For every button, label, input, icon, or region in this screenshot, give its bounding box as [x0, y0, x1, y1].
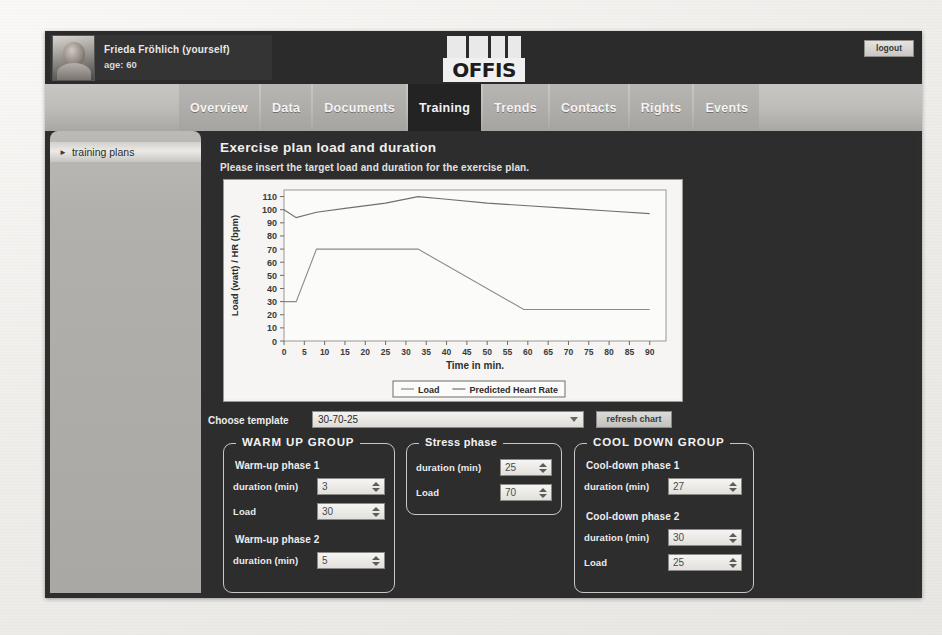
- svg-text:55: 55: [503, 347, 513, 357]
- svg-text:5: 5: [302, 347, 307, 357]
- tab-training[interactable]: Training: [408, 84, 481, 131]
- tab-documents[interactable]: Documents: [313, 84, 406, 131]
- cool-down-phase-1-duration-label: duration (min): [584, 481, 668, 492]
- svg-text:45: 45: [462, 347, 472, 357]
- stress-phase-load-label: Load: [416, 487, 500, 498]
- svg-text:Load: Load: [418, 385, 440, 395]
- cool-down-phase-2-load-value: 25: [673, 557, 684, 568]
- sidebar-item-training-plans[interactable]: ► training plans: [50, 142, 201, 162]
- warm-up-phase-2-duration-value: 5: [322, 555, 328, 566]
- svg-text:70: 70: [564, 347, 574, 357]
- tab-events[interactable]: Events: [694, 84, 759, 131]
- svg-text:110: 110: [262, 192, 277, 202]
- svg-text:40: 40: [442, 347, 452, 357]
- warm-up-phase-1-duration-label: duration (min): [233, 481, 317, 492]
- logo-bars-icon: [447, 36, 521, 60]
- svg-text:10: 10: [320, 347, 330, 357]
- warm-up-phase-1-duration-value: 3: [322, 481, 328, 492]
- chart-svg: 0102030405060708090100110Load (watt) / H…: [224, 180, 680, 399]
- stress-phase-legend: Stress phase: [419, 436, 503, 448]
- stepper-up-icon[interactable]: [539, 463, 547, 467]
- stepper-down-icon[interactable]: [539, 469, 547, 473]
- stepper-up-icon[interactable]: [729, 482, 737, 486]
- warm-up-phase-1-load-value: 30: [322, 506, 333, 517]
- tab-strip: OverviewDataDocumentsTrainingTrendsConta…: [45, 84, 922, 131]
- cool-down-phase-2-load-field: Load 25: [584, 554, 744, 571]
- stress-phase-load-stepper[interactable]: 70: [500, 484, 552, 501]
- stress-phase-duration-stepper[interactable]: 25: [500, 459, 552, 476]
- logout-button[interactable]: logout: [864, 40, 914, 57]
- stepper-up-icon[interactable]: [372, 507, 380, 511]
- svg-text:90: 90: [267, 218, 277, 228]
- avatar: [52, 35, 95, 81]
- warm-up-phase-1-duration-field: duration (min) 3: [233, 478, 385, 495]
- template-row: Choose template 30-70-25 refresh chart: [208, 411, 908, 431]
- template-select-value: 30-70-25: [318, 414, 358, 425]
- cool-down-phase-1-duration-stepper[interactable]: 27: [668, 478, 742, 495]
- exercise-plan-chart: 0102030405060708090100110Load (watt) / H…: [223, 179, 683, 402]
- warm-up-phase-1-duration-stepper[interactable]: 3: [317, 478, 385, 495]
- svg-text:35: 35: [421, 347, 431, 357]
- stress-phase-load-field: Load 70: [416, 484, 552, 501]
- warm-up-phase-1-title: Warm-up phase 1: [235, 460, 385, 471]
- svg-text:20: 20: [267, 310, 277, 320]
- application-window: Frieda Fröhlich (yourself) age: 60 OFFIS…: [45, 31, 922, 598]
- svg-text:70: 70: [267, 245, 277, 255]
- cool-down-phase-2-duration-label: duration (min): [584, 532, 668, 543]
- user-age: age: 60: [104, 58, 230, 72]
- warm-up-phase-2-duration-stepper[interactable]: 5: [317, 552, 385, 569]
- cool-down-group-fieldset: COOL DOWN GROUP Cool-down phase 1 durati…: [574, 443, 754, 593]
- template-select[interactable]: 30-70-25: [312, 411, 584, 428]
- refresh-chart-button[interactable]: refresh chart: [596, 411, 672, 428]
- stepper-up-icon[interactable]: [372, 556, 380, 560]
- cool-down-phase-2-duration-value: 30: [673, 532, 684, 543]
- stepper-down-icon[interactable]: [729, 488, 737, 492]
- cool-down-phase-2-load-stepper[interactable]: 25: [668, 554, 742, 571]
- tab-list: OverviewDataDocumentsTrainingTrendsConta…: [179, 84, 759, 131]
- cool-down-phase-1-duration-field: duration (min) 27: [584, 478, 744, 495]
- stepper-up-icon[interactable]: [729, 558, 737, 562]
- svg-text:0: 0: [272, 337, 277, 347]
- cool-down-phase-1-duration-value: 27: [673, 481, 684, 492]
- offis-logo: OFFIS: [439, 33, 529, 83]
- stepper-up-icon[interactable]: [539, 488, 547, 492]
- svg-text:40: 40: [267, 284, 277, 294]
- warm-up-phase-2-title: Warm-up phase 2: [235, 534, 385, 545]
- tab-data[interactable]: Data: [261, 84, 311, 131]
- warm-up-phase-1-load-stepper[interactable]: 30: [317, 503, 385, 520]
- tab-contacts[interactable]: Contacts: [550, 84, 628, 131]
- stepper-down-icon[interactable]: [372, 562, 380, 566]
- warm-up-phase-2-duration-label: duration (min): [233, 555, 317, 566]
- svg-text:15: 15: [340, 347, 350, 357]
- stress-phase-duration-field: duration (min) 25: [416, 459, 552, 476]
- cool-down-phase-2-load-label: Load: [584, 557, 668, 568]
- logo-wordmark: OFFIS: [443, 58, 525, 82]
- user-info-block: Frieda Fröhlich (yourself) age: 60: [50, 35, 272, 80]
- svg-text:100: 100: [262, 205, 277, 215]
- tab-rights[interactable]: Rights: [630, 84, 693, 131]
- warm-up-phase-2-duration-field: duration (min) 5: [233, 552, 385, 569]
- cool-down-phase-1-title: Cool-down phase 1: [586, 460, 744, 471]
- stepper-down-icon[interactable]: [372, 513, 380, 517]
- tab-trends[interactable]: Trends: [483, 84, 548, 131]
- svg-text:25: 25: [381, 347, 391, 357]
- svg-text:Predicted Heart Rate: Predicted Heart Rate: [469, 385, 558, 395]
- warm-up-phase-1-load-field: Load 30: [233, 503, 385, 520]
- tab-overview[interactable]: Overview: [179, 84, 259, 131]
- stepper-down-icon[interactable]: [729, 539, 737, 543]
- stepper-down-icon[interactable]: [539, 494, 547, 498]
- stress-phase-duration-value: 25: [505, 462, 516, 473]
- warm-up-phase-1-load-label: Load: [233, 506, 317, 517]
- stepper-down-icon[interactable]: [729, 564, 737, 568]
- svg-text:10: 10: [267, 323, 277, 333]
- cool-down-phase-2-duration-stepper[interactable]: 30: [668, 529, 742, 546]
- stepper-up-icon[interactable]: [372, 482, 380, 486]
- page-subtitle: Please insert the target load and durati…: [220, 162, 917, 173]
- cool-down-phase-2-duration-field: duration (min) 30: [584, 529, 744, 546]
- svg-text:80: 80: [604, 347, 614, 357]
- svg-text:90: 90: [645, 347, 655, 357]
- stepper-down-icon[interactable]: [372, 488, 380, 492]
- svg-text:30: 30: [401, 347, 411, 357]
- stepper-up-icon[interactable]: [729, 533, 737, 537]
- stress-phase-fieldset: Stress phase duration (min) 25 Load 70: [406, 443, 562, 515]
